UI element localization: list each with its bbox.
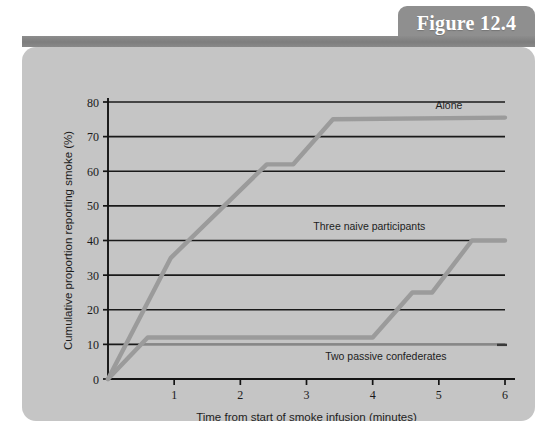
figure-root: Figure 12.4 01020304050607080123456Time … [0,0,558,430]
x-axis-tick-label-5: 5 [436,388,442,402]
x-axis-tick-label-4: 4 [370,388,376,402]
series-label-3: Two passive confederates [325,350,446,362]
x-axis-tick-label-6: 6 [502,388,508,402]
figure-number-label: Figure 12.4 [398,12,535,35]
y-axis-tick-label-0: 0 [93,373,99,387]
y-axis-tick-label-10: 10 [87,338,99,352]
x-axis-tick-label-3: 3 [304,388,310,402]
y-axis-title: Cumulative proportion reporting smoke (%… [62,131,74,350]
y-axis-tick-label-20: 20 [87,303,99,317]
x-axis-tick-label-2: 2 [237,388,243,402]
y-axis-tick-label-50: 50 [87,199,99,213]
y-axis-tick-label-70: 70 [87,130,99,144]
y-axis-tick-label-40: 40 [87,234,99,248]
figure-panel: 01020304050607080123456Time from start o… [22,47,535,421]
series-label-2: Three naive participants [313,220,425,232]
y-axis-tick-label-30: 30 [87,269,99,283]
y-axis-tick-label-60: 60 [87,165,99,179]
plot-container: 01020304050607080123456Time from start o… [22,47,535,421]
x-axis-tick-label-1: 1 [171,388,177,402]
y-axis-tick-label-80: 80 [87,96,99,110]
line-chart: 01020304050607080123456Time from start o… [22,47,535,421]
x-axis-title: Time from start of smoke infusion (minut… [196,411,417,421]
series-label-1: Alone [436,99,463,111]
figure-top-bar [22,36,535,47]
series-line-1 [108,118,505,379]
